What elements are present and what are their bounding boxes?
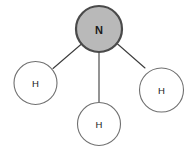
molecule-canvas: H H H N (0, 0, 196, 154)
atom-hydrogen-left: H (14, 62, 57, 105)
bond-nitrogen-hydrogen-left (53, 44, 82, 69)
atom-nitrogen: N (76, 6, 122, 52)
hydrogen-bottom-label: H (96, 119, 103, 130)
atom-hydrogen-bottom: H (78, 103, 121, 146)
hydrogen-right-label: H (158, 85, 165, 96)
atom-hydrogen-right: H (140, 68, 184, 112)
nitrogen-label: N (95, 24, 103, 36)
hydrogen-left-label: H (32, 78, 39, 89)
molecule-diagram: H H H N (0, 0, 196, 154)
bond-nitrogen-hydrogen-right (117, 44, 145, 69)
